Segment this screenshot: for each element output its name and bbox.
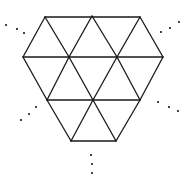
triangle-grid-diagram xyxy=(0,0,191,183)
edge-l1-b1 xyxy=(47,100,71,141)
edge-m4-l3 xyxy=(140,57,163,100)
edge-m1-l1 xyxy=(23,57,47,100)
ray-dot xyxy=(91,172,93,174)
edge-t2-m2 xyxy=(69,16,92,57)
ray-dot xyxy=(20,119,22,121)
edge-t1-m2 xyxy=(45,17,69,57)
ray-dot xyxy=(157,101,159,103)
ray-bottom-right xyxy=(157,101,179,112)
ray-dot xyxy=(177,110,179,112)
ray-dot xyxy=(178,21,180,23)
ray-bottom-left xyxy=(20,106,37,121)
ray-dot xyxy=(169,27,171,29)
edge-l2-b2 xyxy=(93,100,116,141)
edge-m2-l1 xyxy=(47,57,69,100)
triangle-edges xyxy=(23,16,163,141)
ray-dot xyxy=(28,113,30,115)
ray-dot xyxy=(160,31,162,33)
edge-l2-b1 xyxy=(71,100,93,141)
ray-dot xyxy=(5,24,7,26)
ray-top-right xyxy=(160,21,180,33)
edge-t3-m3 xyxy=(117,17,140,57)
edge-t1-m1 xyxy=(23,17,45,57)
edge-l3-b2 xyxy=(116,100,140,141)
ray-bottom xyxy=(90,154,93,174)
ray-dot xyxy=(168,106,170,108)
ray-dot xyxy=(35,106,37,108)
ray-dot xyxy=(23,32,25,34)
edge-m2-l2 xyxy=(69,57,93,100)
edge-t3-m4 xyxy=(140,17,163,57)
edge-m3-l2 xyxy=(93,57,117,100)
edge-t2-m3 xyxy=(92,16,117,57)
ray-dot xyxy=(16,28,18,30)
edge-m3-l3 xyxy=(117,57,140,100)
ray-top-left xyxy=(5,24,25,34)
ray-dot xyxy=(91,163,93,165)
ray-dot xyxy=(90,154,92,156)
dotted-rays xyxy=(5,21,180,174)
